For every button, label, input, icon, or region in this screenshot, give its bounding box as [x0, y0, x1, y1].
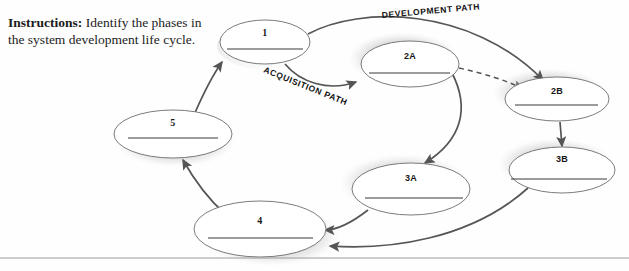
connector-n4-to-n5 [183, 160, 225, 214]
node-label-3a: 3A [405, 173, 417, 183]
node-n5[interactable]: 5 [114, 110, 232, 158]
ellipse-2a[interactable] [361, 41, 459, 87]
ellipse-4[interactable] [194, 201, 326, 257]
ellipse-3a[interactable] [352, 163, 470, 215]
life-cycle-diagram: 5 1 2A 2B 3B 3A [0, 0, 629, 271]
connector-n2a-to-n3a [425, 73, 461, 163]
connector-n5-to-n1 [194, 62, 222, 115]
node-n3b[interactable]: 3B [509, 147, 615, 193]
node-n2b[interactable]: 2B [505, 77, 609, 121]
node-label-2a: 2A [404, 51, 416, 61]
ellipse-2b[interactable] [505, 77, 609, 121]
node-n2a[interactable]: 2A [361, 41, 459, 87]
node-label-2b: 2B [551, 86, 563, 96]
worksheet-page: Instructions: Identify the phases in the… [0, 0, 629, 271]
node-label-3b: 3B [556, 154, 568, 164]
node-label-5: 5 [170, 117, 175, 128]
development-path-label: DEVELOPMENT PATH [381, 1, 480, 20]
node-n1[interactable]: 1 [220, 20, 310, 64]
node-label-1: 1 [262, 27, 267, 38]
node-n3a[interactable]: 3A [352, 163, 470, 215]
node-n4[interactable]: 4 [194, 201, 326, 257]
node-label-4: 4 [257, 215, 262, 226]
